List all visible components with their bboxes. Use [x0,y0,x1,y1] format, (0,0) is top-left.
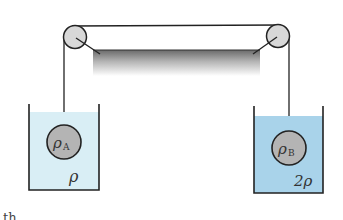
sphere-a-subscript: A [62,142,70,152]
pulley-wheel-icon [267,25,290,48]
ceiling-support [93,50,260,76]
pulley-wheel-icon [64,26,87,49]
pulley-buoyancy-diagram: ρ A ρ B ρ 2ρ th [0,0,343,220]
sphere-b-subscript: B [288,148,295,158]
sphere-a-symbol: ρ [52,134,62,152]
rope-top-segment [72,25,281,26]
right-pulley [253,25,290,55]
cropped-caption-text: th [3,210,17,220]
liquid-a-density-label: ρ [68,167,79,186]
sphere-b: ρ B [272,131,306,165]
sphere-b-symbol: ρ [277,140,287,158]
sphere-a: ρ A [47,125,81,159]
ceiling-shading [93,50,260,76]
left-pulley [64,26,101,55]
liquid-b-density-label: 2ρ [293,172,313,190]
